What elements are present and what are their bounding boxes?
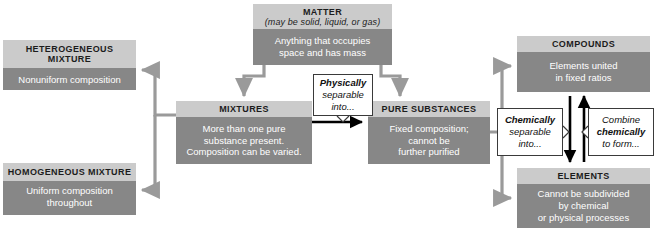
box-homogeneous-body-line-2: throughout <box>47 197 92 209</box>
box-elements-body: Cannot be subdivided by chemical or phys… <box>517 184 650 228</box>
box-pure-substances[interactable]: PURE SUBSTANCES Fixed composition; canno… <box>368 101 490 164</box>
box-elements-header: ELEMENTS <box>517 168 650 184</box>
box-homogeneous-body: Uniform composition throughout <box>3 181 136 215</box>
box-heterogeneous-header: HETEROGENEOUS MIXTURE <box>3 40 136 68</box>
box-mixtures-body-line-1: More than one pure <box>203 123 286 135</box>
box-compounds-body-line-1: Elements united <box>549 60 617 72</box>
callout-combine-chemically: Combine chemically to form... <box>588 108 654 156</box>
box-compounds[interactable]: COMPOUNDS Elements united in fixed ratio… <box>517 36 650 92</box>
box-elements-body-line-3: or physical processes <box>538 212 629 224</box>
box-compounds-title: COMPOUNDS <box>552 39 615 49</box>
box-homogeneous-header: HOMOGENEOUS MIXTURE <box>3 163 136 181</box>
callout-chemically-line-2: separable <box>509 126 551 138</box>
matter-classification-diagram: MATTER (may be solid, liquid, or gas) An… <box>0 0 659 233</box>
box-matter-subtitle: (may be solid, liquid, or gas) <box>255 17 390 27</box>
callout-physically-separable: Physically separable into... <box>313 74 373 116</box>
box-heterogeneous-body-line-1: Nonuniform composition <box>18 74 120 86</box>
box-pure-substances-header: PURE SUBSTANCES <box>368 101 490 117</box>
box-mixtures-title: MIXTURES <box>219 104 269 114</box>
callout-combine-line-1: Combine <box>602 114 640 126</box>
arrow-matter-to-pure-substances <box>381 65 400 96</box>
arrow-mixtures-to-homogeneous <box>142 115 155 190</box>
arrow-mixtures-to-heterogeneous <box>142 70 176 115</box>
box-elements[interactable]: ELEMENTS Cannot be subdivided by chemica… <box>517 168 650 228</box>
callout-pointer-chemically <box>563 126 569 138</box>
callout-chemically-emphasis: Chemically <box>505 114 555 126</box>
box-matter-body: Anything that occupies space and has mas… <box>253 29 392 65</box>
box-mixtures[interactable]: MIXTURES More than one pure substance pr… <box>176 101 312 164</box>
box-heterogeneous-title: HETEROGENEOUS MIXTURE <box>26 44 114 64</box>
box-pure-substances-body: Fixed composition; cannot be further pur… <box>368 117 490 164</box>
callout-combine-line-3: to form... <box>602 138 639 150</box>
box-pure-substances-body-line-2: cannot be <box>408 135 450 147</box>
box-elements-body-line-1: Cannot be subdivided <box>538 188 630 200</box>
box-elements-title: ELEMENTS <box>557 171 609 181</box>
box-matter-body-line-2: space and has mass <box>279 47 366 59</box>
box-matter-header: MATTER (may be solid, liquid, or gas) <box>253 4 392 29</box>
box-pure-substances-title: PURE SUBSTANCES <box>382 104 477 114</box>
callout-chemically-line-3: into... <box>518 138 541 150</box>
box-mixtures-body: More than one pure substance present. Co… <box>176 117 312 164</box>
box-homogeneous-body-line-1: Uniform composition <box>26 185 113 197</box>
callout-physically-line-3: into... <box>331 101 354 113</box>
box-compounds-body: Elements united in fixed ratios <box>517 52 650 92</box>
box-mixtures-body-line-2: substance present. <box>204 135 284 147</box>
box-pure-substances-body-line-1: Fixed composition; <box>389 123 468 135</box>
callout-chemically-separable: Chemically separable into... <box>497 108 563 156</box>
callout-combine-emphasis: chemically <box>597 126 646 138</box>
box-pure-substances-body-line-3: further purified <box>398 146 459 158</box>
box-heterogeneous-body: Nonuniform composition <box>3 68 136 90</box>
box-elements-body-line-2: by chemical <box>558 200 608 212</box>
callout-pointer-physically <box>337 116 349 122</box>
callout-physically-line-2: separable <box>322 89 364 101</box>
box-compounds-header: COMPOUNDS <box>517 36 650 52</box>
box-mixtures-header: MIXTURES <box>176 101 312 117</box>
box-heterogeneous-mixture[interactable]: HETEROGENEOUS MIXTURE Nonuniform composi… <box>3 40 136 90</box>
box-matter-title: MATTER <box>303 7 342 17</box>
box-matter[interactable]: MATTER (may be solid, liquid, or gas) An… <box>253 4 392 65</box>
box-matter-body-line-1: Anything that occupies <box>275 35 371 47</box>
box-homogeneous-mixture[interactable]: HOMOGENEOUS MIXTURE Uniform composition … <box>3 163 136 215</box>
box-mixtures-body-line-3: Composition can be varied. <box>186 146 301 158</box>
callout-physically-emphasis: Physically <box>320 77 366 89</box>
arrow-matter-to-mixtures <box>244 65 264 96</box>
box-homogeneous-title: HOMOGENEOUS MIXTURE <box>8 167 132 177</box>
box-compounds-body-line-2: in fixed ratios <box>556 72 612 84</box>
